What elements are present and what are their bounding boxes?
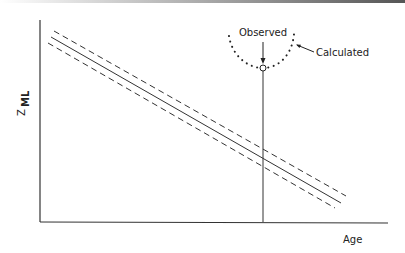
x-axis (40, 222, 388, 223)
observed-point (260, 65, 266, 71)
arrow-head-icon (261, 58, 266, 64)
upper-dashed-line (54, 31, 346, 196)
central-solid-line (51, 37, 341, 203)
observed-label: Observed (239, 27, 287, 38)
dotted-distribution-curve (229, 34, 294, 68)
calculated-label: Calculated (316, 47, 369, 58)
y-axis-label-sub: ML (20, 90, 31, 107)
y-axis-label: Z ML (16, 90, 31, 116)
x-axis-label: Age (343, 234, 362, 245)
leader-arrow-head-icon (296, 45, 301, 49)
lower-dashed-line (48, 43, 335, 208)
diagram: Observed Calculated Age Z ML (0, 0, 405, 253)
y-axis-label-main: Z (16, 109, 27, 116)
